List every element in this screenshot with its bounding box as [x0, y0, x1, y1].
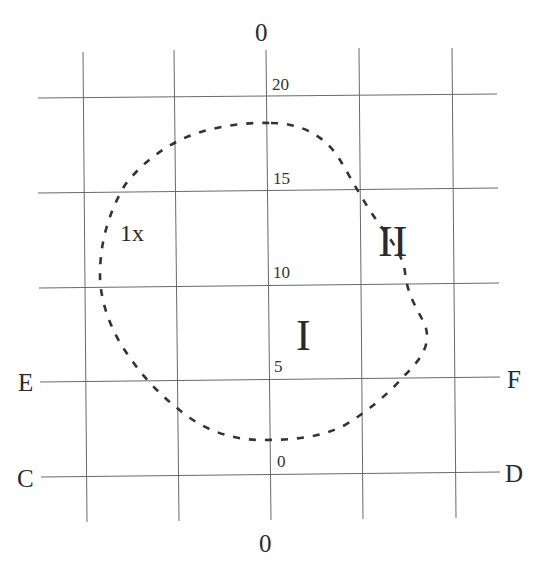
bottom-axis-label: 0	[259, 530, 272, 557]
tick-label-5: 5	[274, 357, 283, 376]
grid-line-vertical-2	[174, 50, 179, 521]
region-label-II: II	[378, 217, 407, 266]
tick-label-15: 15	[273, 169, 290, 188]
grid-diagram: 0 0 E F C D 20 15 10 5 0 1x I II	[0, 0, 545, 588]
edge-label-D: D	[505, 460, 523, 487]
region-label-I: I	[296, 311, 311, 360]
edge-label-E: E	[18, 369, 33, 396]
dashed-contour	[100, 123, 427, 440]
tick-label-10: 10	[273, 263, 290, 282]
tick-label-0: 0	[277, 452, 286, 471]
edge-label-F: F	[507, 366, 521, 393]
edge-label-C: C	[17, 465, 34, 492]
tick-label-20: 20	[272, 75, 289, 94]
diagram-canvas: 0 0 E F C D 20 15 10 5 0 1x I II	[0, 0, 545, 588]
region-label-1x: 1x	[120, 220, 144, 246]
grid-line-horizontal-20	[38, 94, 497, 98]
top-axis-label: 0	[255, 19, 268, 46]
grid-line-vertical-4	[359, 48, 363, 519]
horizontal-grid-lines	[38, 94, 500, 477]
